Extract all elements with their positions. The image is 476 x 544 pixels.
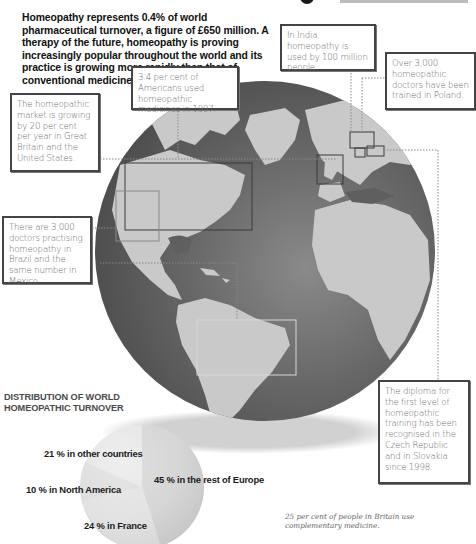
callout-brazil-mexico: There are 3,000 doctors practising homeo… [2,216,92,284]
callout-india: In India, homeopathy is used by 100 mill… [280,24,376,71]
callout-brazil-mexico-text: There are 3,000 doctors practising homeo… [9,222,82,286]
label-france: 24 % in France [84,520,147,531]
callout-americans-text: 3.4 per cent of Americans used homeopath… [138,72,216,114]
label-other-countries: 21 % in other countries [44,448,143,459]
callout-czech-slovakia-text: The diploma for the first level of homeo… [385,386,457,472]
callout-poland: Over 3,000 homeopathic doctors have been… [385,52,476,110]
callout-americans: 3.4 per cent of Americans used homeopath… [131,66,239,110]
callout-india-text: In India, homeopathy is used by 100 mill… [287,30,368,72]
label-north-america: 10 % in North America [26,484,121,495]
callout-poland-text: Over 3,000 homeopathic doctors have been… [392,58,469,100]
label-rest-of-europe: 45 % in the rest of Europe [154,474,264,485]
callout-market: The homeopathic market is growing by 20 … [10,93,100,172]
callout-market-text: The homeopathic market is growing by 20 … [17,99,90,163]
callout-czech-slovakia: The diploma for the first level of homeo… [378,380,470,484]
